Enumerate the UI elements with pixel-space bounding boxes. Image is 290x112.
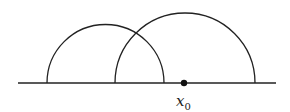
semicircles-diagram — [0, 0, 290, 112]
right-semicircle — [115, 13, 255, 83]
diagram-canvas: x0 — [0, 0, 290, 112]
point-x0 — [181, 80, 187, 86]
label-subscript: 0 — [184, 101, 190, 112]
left-semicircle — [47, 25, 164, 84]
point-label: x0 — [176, 92, 191, 112]
